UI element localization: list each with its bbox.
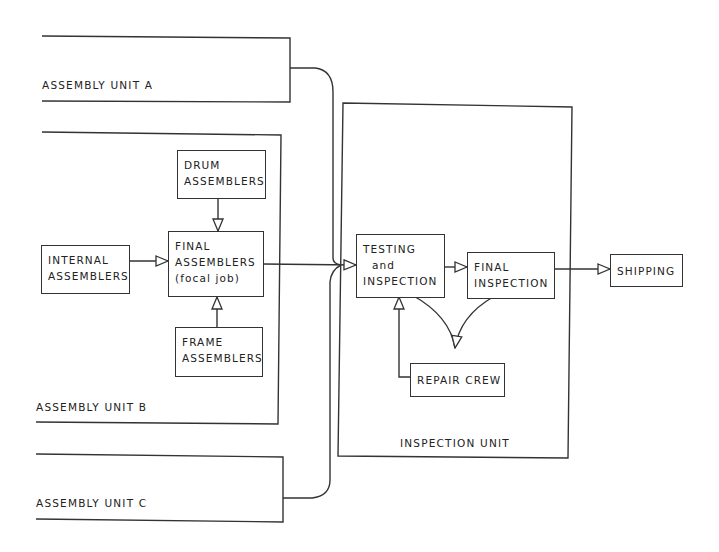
internal-assemblers-node: INTERNAL ASSEMBLERS bbox=[41, 245, 130, 294]
final-inspection-label: FINAL INSPECTION bbox=[474, 259, 549, 291]
repair-crew-label: REPAIR CREW bbox=[417, 372, 501, 388]
testing-inspection-label: TESTING and INSPECTION bbox=[363, 241, 438, 289]
connector-unit-c bbox=[283, 265, 341, 498]
drum-assemblers-label: DRUM ASSEMBLERS bbox=[184, 157, 265, 189]
curve-final-inspection-to-repair bbox=[455, 297, 493, 348]
final-assemblers-node: FINAL ASSEMBLERS (focal job) bbox=[168, 231, 264, 297]
testing-inspection-node: TESTING and INSPECTION bbox=[356, 234, 445, 298]
inspection-unit-label: INSPECTION UNIT bbox=[400, 435, 510, 451]
arrow-final-assemblers-to-testing bbox=[263, 264, 356, 265]
shipping-label: SHIPPING bbox=[617, 263, 675, 279]
assembly-unit-c-label: ASSEMBLY UNIT C bbox=[36, 495, 147, 511]
assembly-unit-a-label: ASSEMBLY UNIT A bbox=[42, 77, 153, 93]
final-inspection-node: FINAL INSPECTION bbox=[467, 252, 555, 299]
assembly-unit-c-outline bbox=[36, 454, 283, 522]
shipping-node: SHIPPING bbox=[610, 254, 683, 287]
final-assemblers-label: FINAL ASSEMBLERS (focal job) bbox=[175, 238, 256, 286]
connector-unit-a bbox=[290, 68, 341, 265]
frame-assemblers-node: FRAME ASSEMBLERS bbox=[175, 327, 263, 377]
drum-assemblers-node: DRUM ASSEMBLERS bbox=[177, 150, 266, 199]
curve-testing-to-repair bbox=[412, 295, 455, 348]
repair-crew-node: REPAIR CREW bbox=[410, 363, 505, 397]
assembly-unit-b-label: ASSEMBLY UNIT B bbox=[36, 399, 147, 415]
internal-assemblers-label: INTERNAL ASSEMBLERS bbox=[48, 252, 129, 284]
frame-assemblers-label: FRAME ASSEMBLERS bbox=[182, 334, 263, 366]
